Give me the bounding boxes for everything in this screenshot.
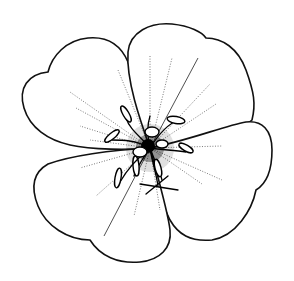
flower-illustration [0,0,294,281]
flower-drawing [0,0,294,281]
